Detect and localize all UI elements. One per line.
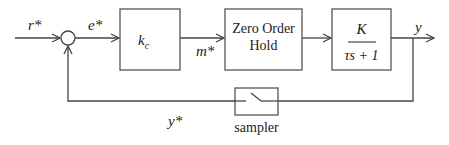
zoh-label-line2: Hold [250,38,278,53]
block-diagram: r* e* kc m* Zero Order Hold K τs + 1 y s… [0,0,449,145]
zoh-label-line1: Zero Order [232,21,295,36]
sampled-feedback-label: y* [166,113,183,129]
plant-numerator: K [355,21,367,37]
controller-output-label: m* [196,43,215,59]
reference-label: r* [28,17,42,33]
summing-junction [61,31,75,45]
error-label: e* [88,17,103,33]
plant-denominator: τs + 1 [345,48,379,63]
output-label: y [413,19,422,35]
sampler-label: sampler [234,120,279,135]
controller-block [120,9,180,70]
